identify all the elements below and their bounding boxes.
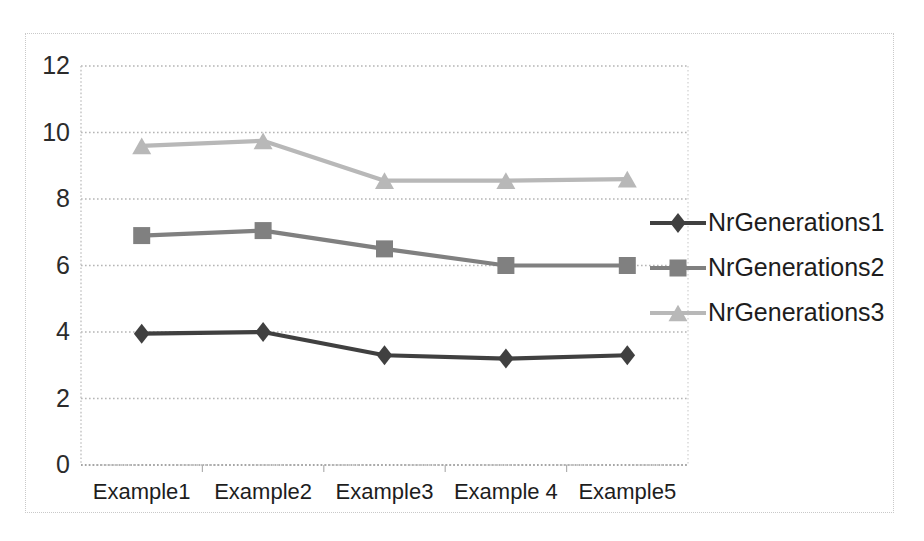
data-point [377,345,393,365]
y-tick-label: 10 [14,120,70,145]
y-tick-label: 8 [14,186,70,211]
data-point [133,227,150,244]
series-2 [133,222,636,274]
y-tick-label: 6 [14,253,70,278]
y-tick-label: 0 [14,452,70,477]
data-point [376,240,393,257]
y-tick-label: 2 [14,386,70,411]
legend-marker [670,213,686,233]
data-point [620,345,636,365]
y-tick-label: 4 [14,319,70,344]
legend-item-2[interactable]: NrGenerations2 [648,245,898,290]
data-point [255,322,271,342]
legend-marker [670,259,687,276]
data-point [619,257,636,274]
legend-item-3[interactable]: NrGenerations3 [648,290,898,335]
data-point [255,222,272,239]
triangle-marker-icon [648,301,708,325]
square-marker-icon [648,256,708,280]
legend-swatch-svg [648,211,708,235]
data-point [498,349,514,369]
series-3 [132,132,637,189]
legend-swatch-svg [648,301,708,325]
diamond-marker-icon [648,211,708,235]
legend-label: NrGenerations2 [708,255,884,280]
data-point [134,324,150,344]
chart-legend: NrGenerations1NrGenerations2NrGeneration… [648,200,898,335]
y-tick-label: 12 [14,53,70,78]
legend-label: NrGenerations1 [708,210,884,235]
legend-swatch-svg [648,256,708,280]
series-1 [134,322,635,369]
legend-label: NrGenerations3 [708,300,884,325]
legend-item-1[interactable]: NrGenerations1 [648,200,898,245]
x-tick-label: Example5 [537,481,717,503]
data-point [497,257,514,274]
